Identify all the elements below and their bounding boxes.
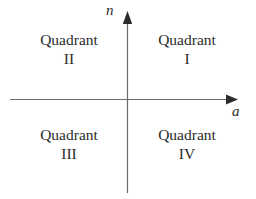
vertical-axis-arrowhead xyxy=(123,11,132,24)
horizontal-axis-label: a xyxy=(232,104,240,119)
vertical-axis-label: n xyxy=(106,3,114,18)
quadrant-iii-numeral: III xyxy=(17,144,121,163)
quadrant-label-ii: Quadrant II xyxy=(17,30,121,69)
quadrant-label-i: Quadrant I xyxy=(135,30,239,69)
quadrant-i-numeral: I xyxy=(135,49,239,68)
quadrant-iii-word: Quadrant xyxy=(17,125,121,144)
quadrant-label-iii: Quadrant III xyxy=(17,125,121,164)
quadrant-iv-numeral: IV xyxy=(135,144,239,163)
quadrant-iv-word: Quadrant xyxy=(135,125,239,144)
quadrant-ii-numeral: II xyxy=(17,49,121,68)
quadrant-label-iv: Quadrant IV xyxy=(135,125,239,164)
quadrant-diagram: n a Quadrant II Quadrant I Quadrant III … xyxy=(0,0,256,199)
quadrant-i-word: Quadrant xyxy=(135,30,239,49)
quadrant-ii-word: Quadrant xyxy=(17,30,121,49)
